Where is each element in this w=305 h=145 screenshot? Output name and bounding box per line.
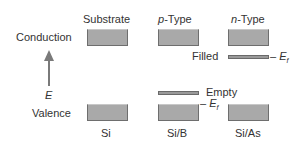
p-type-valence-band — [158, 104, 199, 121]
p-type-suffix: -Type — [164, 13, 192, 25]
n-type-suffix: -Type — [237, 13, 265, 25]
p-type-conduction-band — [158, 29, 199, 46]
n-type-fermi-label: – Ef — [270, 50, 288, 64]
p-type-acceptor-level — [158, 91, 199, 95]
n-type-donor-level — [228, 55, 269, 59]
material-label-si: Si — [101, 127, 111, 139]
arrow-shaft — [48, 60, 50, 86]
fermi-subscript: f — [287, 57, 289, 64]
fermi-dash: – — [200, 97, 209, 109]
valence-label: Valence — [32, 107, 71, 119]
fermi-dash: – — [270, 50, 279, 62]
column-header-p-type: p-Type — [158, 13, 192, 25]
filled-level-label: Filled — [192, 50, 218, 62]
p-type-fermi-label: – Ef — [200, 97, 218, 111]
material-label-si-b: Si/B — [167, 127, 187, 139]
column-header-n-type: n-Type — [231, 13, 265, 25]
n-type-conduction-band — [228, 29, 269, 46]
fermi-symbol: E — [209, 97, 216, 109]
fermi-symbol: E — [279, 50, 286, 62]
column-header-substrate: Substrate — [83, 13, 130, 25]
energy-axis-label: E — [45, 89, 52, 101]
conduction-label: Conduction — [16, 31, 72, 43]
substrate-valence-band — [87, 104, 128, 121]
n-type-valence-band — [228, 104, 269, 121]
substrate-conduction-band — [87, 29, 128, 46]
material-label-si-as: Si/As — [235, 127, 261, 139]
fermi-subscript: f — [217, 104, 219, 111]
